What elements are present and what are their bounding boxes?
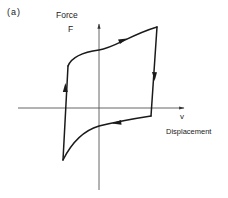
- loop-right-branch: [151, 27, 157, 116]
- y-axis-symbol: F: [68, 25, 73, 34]
- y-axis-label: Force: [56, 11, 78, 20]
- panel-label: (a): [7, 8, 21, 17]
- loop-left-branch: [63, 66, 68, 160]
- direction-arrows: [63, 39, 157, 125]
- x-axis-symbol: v: [180, 113, 184, 121]
- loop-bottom-branch: [63, 116, 151, 160]
- x-axis-label: Displacement: [166, 128, 211, 136]
- hysteresis-loop: [63, 27, 157, 160]
- hysteresis-diagram: [0, 0, 228, 198]
- loop-top-branch: [68, 27, 157, 66]
